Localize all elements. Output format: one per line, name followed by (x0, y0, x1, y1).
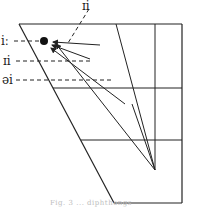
label-i-long: iː (1, 35, 9, 47)
grid-lines (53, 24, 182, 170)
monophthong-point (40, 37, 48, 45)
label-ii: ɪi (3, 55, 11, 67)
label-top-ii: ɪi (82, 0, 90, 12)
figure-caption: Fig. 3 ... diphthongs (50, 199, 132, 207)
vowel-chart (0, 0, 219, 210)
label-ai: əi (2, 74, 13, 86)
quadrilateral-outline (19, 24, 182, 203)
